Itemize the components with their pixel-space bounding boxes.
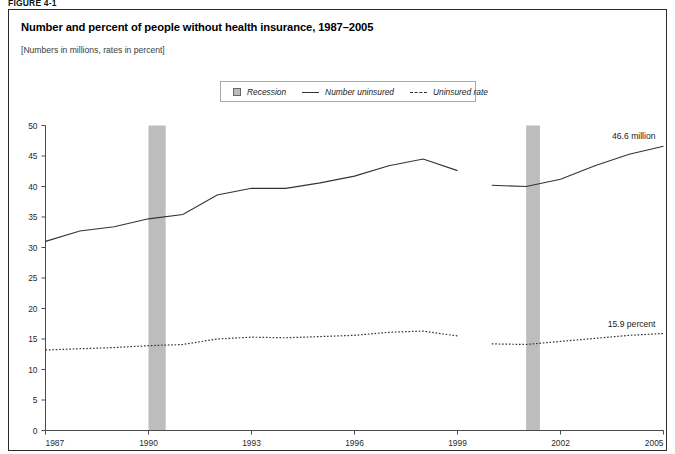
y-axis-tick-label: 0 [33, 426, 38, 436]
chart-annotations: 46.6 million15.9 percent [608, 131, 656, 328]
y-axis-tick-label: 50 [28, 121, 38, 131]
series-lines [46, 146, 664, 350]
y-axis-tick-label: 10 [28, 365, 38, 375]
x-axis-tick-label: 1993 [242, 438, 261, 448]
series-line-uninsured-rate-seg1 [492, 334, 664, 345]
y-axis-tick-label: 45 [28, 151, 38, 161]
y-axis-tick-label: 15 [28, 334, 38, 344]
series-line-uninsured-rate-seg0 [46, 331, 458, 350]
number-uninsured-endpoint: 46.6 million [612, 131, 656, 141]
x-axis-tick-label: 2002 [551, 438, 570, 448]
uninsured-rate-endpoint: 15.9 percent [608, 319, 656, 329]
y-axis-tick-label: 40 [28, 182, 38, 192]
series-line-number-uninsured-seg1 [492, 146, 664, 186]
y-axis-tick-label: 25 [28, 273, 38, 283]
y-axis-tick-label: 5 [33, 395, 38, 405]
x-axis-tick-label: 2005 [645, 438, 664, 448]
x-axis-tick-label: 1996 [345, 438, 364, 448]
y-axis-tick-label: 30 [28, 243, 38, 253]
y-axis: 05101520253035404550 [28, 121, 45, 436]
x-axis-tick-label: 1987 [46, 438, 65, 448]
x-axis-tick-label: 1999 [448, 438, 467, 448]
x-axis-tick-label: 1990 [139, 438, 158, 448]
recession-1990 [149, 126, 166, 431]
y-axis-tick-label: 20 [28, 304, 38, 314]
recession-2001 [526, 126, 540, 431]
y-axis-tick-label: 35 [28, 212, 38, 222]
figure-root: FIGURE 4-1 Number and percent of people … [0, 0, 675, 454]
recession-bands [149, 126, 540, 431]
x-axis: 1987199019931996199920022005 [46, 431, 664, 448]
series-line-number-uninsured-seg0 [46, 159, 458, 241]
chart-plot-area: 05101520253035404550 1987199019931996199… [0, 0, 675, 454]
